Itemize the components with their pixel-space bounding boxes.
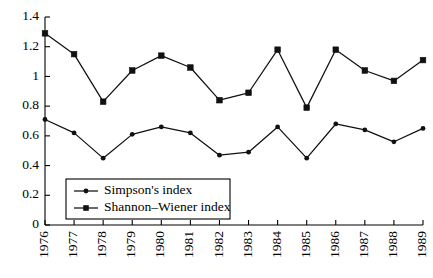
data-point-marker — [129, 68, 135, 74]
chart-container: 00.20.40.60.811.21.419761977197819791980… — [0, 0, 433, 278]
legend-marker — [83, 205, 89, 211]
y-axis-tick-label: 0 — [32, 216, 39, 231]
series-simpsons-index — [43, 117, 426, 160]
data-point-marker — [217, 97, 223, 103]
data-point-marker — [101, 156, 106, 161]
x-axis-tick-label: 1987 — [356, 231, 371, 258]
legend-marker — [84, 189, 89, 194]
x-axis-tick-label: 1989 — [414, 231, 429, 258]
x-axis-tick-label: 1981 — [181, 231, 196, 258]
data-point-marker — [100, 99, 106, 105]
data-point-marker — [391, 78, 397, 84]
x-axis-tick-label: 1979 — [123, 231, 138, 258]
x-axis-tick-label: 1984 — [269, 231, 284, 258]
x-axis-tick-label: 1978 — [94, 231, 109, 258]
data-point-marker — [246, 90, 252, 96]
data-point-marker — [188, 65, 194, 71]
data-point-marker — [333, 122, 338, 127]
data-point-marker — [275, 125, 280, 130]
data-point-marker — [71, 51, 77, 57]
data-point-marker — [275, 47, 281, 53]
data-point-marker — [43, 117, 48, 122]
x-axis-tick-label: 1980 — [152, 231, 167, 258]
legend: Simpson's indexShannon–Wiener index — [66, 179, 231, 219]
y-axis-tick-label: 1 — [32, 68, 39, 83]
data-point-marker — [72, 130, 77, 135]
data-point-marker — [130, 132, 135, 137]
data-point-marker — [304, 156, 309, 161]
legend-label-1: Shannon–Wiener index — [104, 199, 231, 214]
y-axis-tick-label: 0.8 — [22, 97, 39, 112]
x-axis-tick-label: 1976 — [36, 231, 51, 258]
data-point-marker — [333, 47, 339, 53]
data-point-marker — [421, 126, 426, 131]
line-chart: 00.20.40.60.811.21.419761977197819791980… — [0, 0, 433, 278]
data-point-marker — [420, 57, 426, 63]
data-point-marker — [188, 130, 193, 135]
data-point-marker — [362, 128, 367, 133]
data-point-marker — [159, 125, 164, 130]
y-axis-tick-label: 0.4 — [22, 157, 39, 172]
y-axis-tick-label: 0.2 — [22, 186, 39, 201]
data-point-marker — [42, 31, 48, 37]
x-axis-tick-label: 1977 — [65, 231, 80, 258]
legend-label-0: Simpson's index — [104, 182, 193, 197]
x-axis-tick-label: 1985 — [298, 231, 313, 258]
y-axis-tick-label: 0.6 — [22, 127, 39, 142]
x-axis-tick-label: 1988 — [385, 231, 400, 258]
y-axis-tick-label: 1.2 — [22, 38, 39, 53]
data-point-marker — [159, 53, 165, 59]
data-point-marker — [392, 139, 397, 144]
data-point-marker — [362, 68, 368, 74]
series-shannon-wiener-index — [42, 31, 426, 111]
x-axis-tick-label: 1983 — [240, 231, 255, 258]
x-axis-tick-label: 1986 — [327, 231, 342, 258]
data-point-marker — [246, 150, 251, 155]
data-point-marker — [217, 153, 222, 158]
x-axis-tick-label: 1982 — [211, 231, 226, 258]
data-point-marker — [304, 105, 310, 111]
series-line — [45, 120, 423, 159]
y-axis-tick-label: 1.4 — [22, 8, 39, 23]
